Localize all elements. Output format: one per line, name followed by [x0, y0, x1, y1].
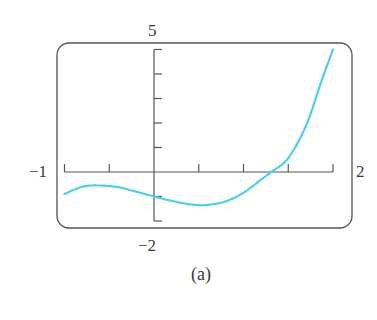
- y-max-label: 5: [148, 22, 157, 39]
- calculator-graph: [0, 0, 377, 320]
- x-max-label: 2: [356, 163, 365, 180]
- x-min-label: −1: [29, 163, 47, 180]
- y-min-label: −2: [138, 237, 156, 254]
- function-curve: [65, 50, 334, 206]
- axes: [65, 50, 334, 222]
- figure-caption: (a): [191, 265, 211, 283]
- viewing-window-frame: [57, 43, 352, 228]
